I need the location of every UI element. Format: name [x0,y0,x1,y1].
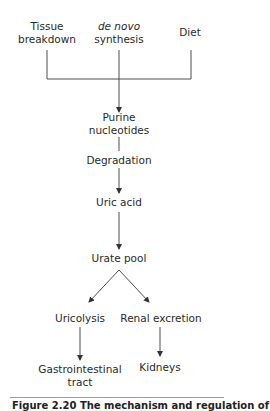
node-purine-line1: Purine [89,111,150,124]
figure-caption: Figure 2.20 The mechanism and regulation… [12,400,269,411]
node-gi-line1: Gastrointestinal [38,363,121,376]
node-denovo-line1: de novo [98,20,140,32]
node-tissue-breakdown: Tissue breakdown [18,20,76,46]
node-denovo-line2: synthesis [94,33,143,46]
caption-divider [10,397,224,398]
node-gastrointestinal-tract: Gastrointestinal tract [38,363,121,389]
node-tissue-line1: Tissue [18,20,76,33]
node-urate-pool: Urate pool [92,252,147,265]
node-de-novo-synthesis: de novo synthesis [94,20,143,46]
node-purine-line2: nucleotides [89,124,150,137]
node-degradation: Degradation [86,154,151,167]
node-uricolysis: Uricolysis [55,312,105,325]
node-diet: Diet [179,26,201,39]
node-diet-label: Diet [179,26,201,39]
arrow-to-renal [119,270,149,302]
node-purine-nucleotides: Purine nucleotides [89,111,150,137]
node-uric-acid: Uric acid [96,196,142,209]
node-renal-excretion: Renal excretion [120,312,201,325]
arrow-to-uricolysis [89,270,119,302]
node-kidneys: Kidneys [139,361,180,374]
node-gi-line2: tract [38,376,121,389]
node-tissue-line2: breakdown [18,33,76,46]
